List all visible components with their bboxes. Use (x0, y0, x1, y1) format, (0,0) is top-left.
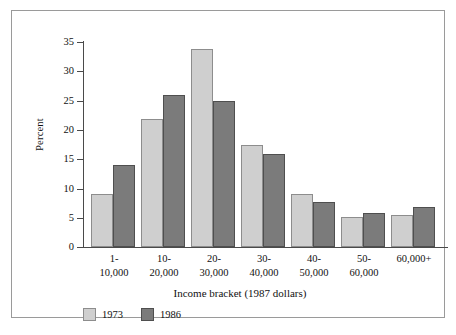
legend-swatch-1973-icon (83, 308, 96, 321)
x-tick-label-group-6-line1: 60,000+ (379, 252, 449, 266)
y-tick-label-35: 35 (48, 37, 74, 47)
bar-1986-group-4 (313, 202, 335, 247)
y-tick-label-15: 15 (48, 154, 74, 164)
y-tick-label-30: 30 (48, 66, 74, 76)
x-axis-title: Income bracket (1987 dollars) (12, 287, 456, 299)
legend-item-1973[interactable]: 1973 (83, 308, 123, 321)
legend-swatch-1986-icon (141, 308, 154, 321)
y-tick-label-25-wrap: 25 (48, 96, 74, 106)
y-tick-15 (77, 159, 84, 160)
y-axis-title: Percent (34, 105, 45, 165)
bar-1986-group-3 (263, 154, 285, 247)
y-tick-label-25: 25 (48, 96, 74, 106)
y-tick-label-35-wrap: 35 (48, 37, 74, 47)
bar-1986-group-6 (413, 207, 435, 247)
y-tick-label-5-wrap: 5 (48, 213, 74, 223)
y-tick-label-20-wrap: 20 (48, 125, 74, 135)
bar-1973-group-3 (241, 145, 263, 247)
y-tick-35 (77, 42, 84, 43)
y-tick-label-0: 0 (48, 242, 74, 252)
plot-area (84, 42, 447, 247)
legend-item-1986[interactable]: 1986 (141, 308, 181, 321)
bar-1986-group-5 (363, 213, 385, 247)
bar-1973-group-4 (291, 194, 313, 247)
y-tick-label-15-wrap: 15 (48, 154, 74, 164)
y-tick-label-5: 5 (48, 213, 74, 223)
y-tick-30 (77, 71, 84, 72)
bar-1973-group-2 (191, 49, 213, 247)
bar-1973-group-0 (91, 194, 113, 247)
legend-label-1986: 1986 (160, 309, 181, 320)
y-tick-20 (77, 130, 84, 131)
y-tick-0 (77, 247, 84, 248)
bar-1986-group-1 (163, 95, 185, 247)
x-tick-label-group-6: 60,000+ (379, 252, 449, 266)
figure-frame: Percent 0 5 10 15 20 25 30 (11, 10, 445, 318)
y-tick-label-10: 10 (48, 184, 74, 194)
y-tick-label-10-wrap: 10 (48, 184, 74, 194)
bar-1986-group-2 (213, 101, 235, 247)
y-tick-5 (77, 218, 84, 219)
chart-legend: 1973 1986 (83, 308, 181, 321)
y-tick-25 (77, 101, 84, 102)
y-tick-label-30-wrap: 30 (48, 66, 74, 76)
bar-1973-group-5 (341, 217, 363, 247)
bar-1986-group-0 (113, 165, 135, 247)
y-tick-10 (77, 189, 84, 190)
chart-figure: Percent 0 5 10 15 20 25 30 (0, 0, 456, 335)
legend-label-1973: 1973 (102, 309, 123, 320)
bar-1973-group-1 (141, 119, 163, 247)
x-axis-line (83, 247, 448, 248)
y-tick-label-20: 20 (48, 125, 74, 135)
y-tick-label-0-wrap: 0 (48, 242, 74, 252)
bar-1973-group-6 (391, 215, 413, 247)
x-tick-label-group-5-line2: 60,000 (329, 266, 399, 280)
